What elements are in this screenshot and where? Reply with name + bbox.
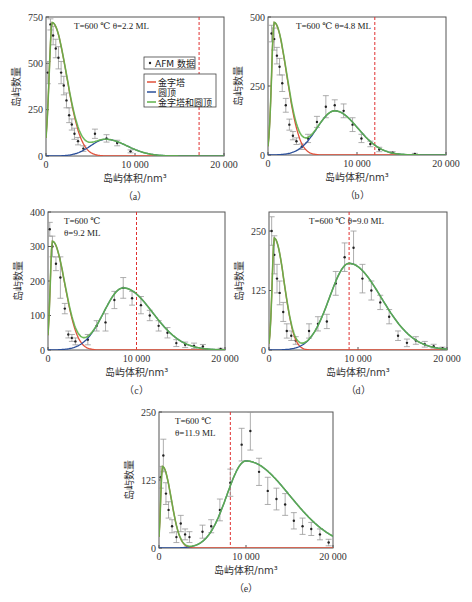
condition-annotation: θ=11.9 ML xyxy=(175,428,216,438)
legend-entry: 圆顶 xyxy=(158,88,176,98)
x-tick-label: 10 000 xyxy=(232,551,260,562)
y-tick-label: 250 xyxy=(141,407,156,418)
y-tick-label: 300 xyxy=(30,241,45,252)
y-tick-label: 750 xyxy=(28,12,43,23)
x-tick-label: 20 000 xyxy=(433,353,461,364)
y-tick-label: 250 xyxy=(251,226,266,237)
y-tick-label: 0 xyxy=(261,345,266,356)
chart-panel-e: 0125250010 00020 000岛屿体积/nm³岛屿数量（e）T=600… xyxy=(123,407,347,595)
x-tick-label: 10 000 xyxy=(123,353,151,364)
y-tick-label: 0 xyxy=(40,345,45,356)
x-tick-label: 20 000 xyxy=(432,158,460,169)
chart-panel-c: 0100200300400010 00020 000岛屿体积/nm³岛屿数量（c… xyxy=(12,207,239,397)
x-tick-label: 0 xyxy=(157,551,162,562)
x-axis-label: 岛屿体积/nm³ xyxy=(325,171,388,183)
panel-caption: （c） xyxy=(124,385,148,396)
condition-annotation: T=600 ℃ xyxy=(175,416,211,426)
y-tick-label: 0 xyxy=(38,151,43,162)
chart-panel-d: 0125250010 00020 000岛屿体积/nm³岛屿数量（d）T=600… xyxy=(233,212,461,396)
condition-annotation: θ=9.2 ML xyxy=(64,228,100,238)
panel-caption: （d） xyxy=(346,385,371,396)
figure-canvas: 0250500750010 00020 000岛屿体积/nm³岛屿数量（a）T=… xyxy=(0,0,472,602)
x-tick-label: 10 000 xyxy=(343,158,371,169)
y-tick-label: 0 xyxy=(151,543,156,554)
condition-annotation: T=600 ℃ xyxy=(64,216,100,226)
chart-panel-a: 0250500750010 00020 000岛屿体积/nm³岛屿数量（a）T=… xyxy=(10,12,238,203)
y-tick-label: 400 xyxy=(30,207,45,218)
y-tick-label: 250 xyxy=(250,81,265,92)
panel-caption: （b） xyxy=(345,190,370,201)
x-tick-label: 10 000 xyxy=(344,353,372,364)
plot-frame xyxy=(269,212,447,350)
x-tick-label: 10 000 xyxy=(121,159,149,170)
x-axis-label: 岛屿体积/nm³ xyxy=(105,366,168,378)
y-axis-label: 岛屿数量 xyxy=(233,261,245,301)
x-axis-label: 岛屿体积/nm³ xyxy=(214,564,277,576)
y-tick-label: 100 xyxy=(30,310,45,321)
x-axis-label: 岛屿体积/nm³ xyxy=(326,366,389,378)
condition-annotation: T=600 ℃ θ=2.2 ML xyxy=(74,21,149,31)
x-tick-label: 20 000 xyxy=(210,159,238,170)
y-axis-label: 岛屿数量 xyxy=(10,67,22,107)
y-axis-label: 岛屿数量 xyxy=(232,66,244,106)
legend-entry: 金字塔和圆顶 xyxy=(158,97,212,108)
plot-frame xyxy=(268,17,446,155)
x-tick-label: 0 xyxy=(267,353,272,364)
y-axis-label: 岛屿数量 xyxy=(123,460,135,500)
x-tick-label: 0 xyxy=(266,158,271,169)
y-tick-label: 500 xyxy=(28,58,43,69)
y-tick-label: 250 xyxy=(28,104,43,115)
condition-annotation: T=600 ℃ θ=9.0 ML xyxy=(309,216,384,226)
x-tick-label: 0 xyxy=(44,159,49,170)
legend-entry: 金字塔 xyxy=(158,77,185,88)
y-tick-label: 200 xyxy=(30,276,45,287)
y-tick-label: 500 xyxy=(250,12,265,23)
y-tick-label: 125 xyxy=(251,285,266,296)
x-tick-label: 20 000 xyxy=(319,551,347,562)
y-axis-label: 岛屿数量 xyxy=(12,261,24,301)
y-tick-label: 125 xyxy=(141,475,156,486)
chart-panel-b: 0250500010 00020 000岛屿体积/nm³岛屿数量（b）T=600… xyxy=(232,12,460,202)
x-tick-label: 20 000 xyxy=(211,353,239,364)
panel-caption: （a） xyxy=(123,191,147,202)
panel-caption: （e） xyxy=(234,583,258,594)
x-tick-label: 0 xyxy=(46,353,51,364)
y-tick-label: 0 xyxy=(260,150,265,161)
legend-data-entry: AFM 数据 xyxy=(155,58,195,69)
condition-annotation: T=600 ℃ θ=4.8 ML xyxy=(296,21,371,31)
x-axis-label: 岛屿体积/nm³ xyxy=(103,172,166,184)
